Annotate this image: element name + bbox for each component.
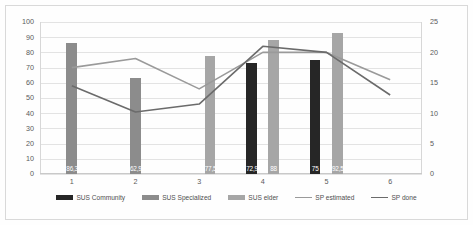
bar[interactable]: 62,9: [130, 78, 141, 174]
y-axis-left-tick-label: 10: [8, 155, 34, 162]
legend-item[interactable]: SUS elder: [228, 194, 278, 201]
legend-line-swatch-icon: [295, 197, 312, 199]
y-axis-left-tick-label: 40: [8, 110, 34, 117]
legend-label: SP estimated: [315, 194, 354, 201]
x-axis-tick-label: 2: [106, 178, 166, 185]
x-axis-baseline: [40, 173, 422, 174]
y-axis-right-tick-label: 20: [430, 49, 454, 56]
x-axis-tick-label: 1: [42, 178, 102, 185]
bar-data-label: 72,9: [246, 165, 257, 172]
bar[interactable]: 75: [310, 60, 321, 174]
y-axis-left-tick-label: 70: [8, 64, 34, 71]
gridline: [40, 98, 422, 99]
bar[interactable]: 72,9: [246, 63, 257, 174]
y-axis-left-tick-label: 60: [8, 79, 34, 86]
legend-bar-swatch-icon: [56, 195, 73, 200]
bar-data-label: 88: [268, 165, 279, 172]
gridline: [40, 159, 422, 160]
bar-data-label: 77,5: [205, 165, 216, 172]
y-axis-left-tick-label: 20: [8, 140, 34, 147]
legend-bar-swatch-icon: [228, 195, 245, 200]
y-axis-left-tick-label: 50: [8, 94, 34, 101]
combo-chart: 0102030405060708090100 0510152025 123456…: [0, 0, 473, 225]
bar-data-label: 92,5: [332, 165, 343, 172]
y-axis-right-tick-label: 5: [430, 140, 454, 147]
plot-area: 86,362,977,572,9887592,5: [40, 22, 422, 174]
gridline: [40, 144, 422, 145]
y-axis-left-tick-label: 80: [8, 49, 34, 56]
gridline: [40, 37, 422, 38]
legend-line-swatch-icon: [371, 197, 388, 199]
gridline: [40, 83, 422, 84]
legend-item[interactable]: SUS Specialized: [142, 194, 211, 201]
legend-label: SUS Specialized: [162, 194, 211, 201]
gridline: [40, 22, 422, 23]
y-axis-right-tick-label: 25: [430, 18, 454, 25]
legend-item[interactable]: SP done: [371, 194, 416, 201]
gridline: [40, 174, 422, 175]
x-axis-tick-label: 3: [169, 178, 229, 185]
y-axis-right-tick-label: 15: [430, 79, 454, 86]
bar-data-label: 62,9: [130, 165, 141, 172]
bar-data-label: 75: [310, 165, 321, 172]
bar[interactable]: 77,5: [205, 56, 216, 174]
x-axis-tick-label: 4: [233, 178, 293, 185]
legend-bar-swatch-icon: [142, 195, 159, 200]
legend-item[interactable]: SP estimated: [295, 194, 354, 201]
x-axis-tick-label: 5: [297, 178, 357, 185]
y-axis-left-tick-label: 100: [8, 18, 34, 25]
y-axis-right-line: [421, 22, 422, 174]
y-axis-left-line: [40, 22, 41, 174]
legend-label: SUS Community: [76, 194, 125, 201]
gridline: [40, 68, 422, 69]
legend-item[interactable]: SUS Community: [56, 194, 125, 201]
bar[interactable]: 86,3: [66, 43, 77, 174]
gridline: [40, 113, 422, 114]
gridline: [40, 128, 422, 129]
y-axis-right-tick-label: 10: [430, 110, 454, 117]
gridline: [40, 52, 422, 53]
bar[interactable]: 88: [268, 40, 279, 174]
chart-legend: SUS CommunitySUS SpecializedSUS elderSP …: [0, 194, 473, 201]
bar[interactable]: 92,5: [332, 33, 343, 174]
y-axis-left-tick-label: 0: [8, 170, 34, 177]
y-axis-right-tick-label: 0: [430, 170, 454, 177]
bar-data-label: 86,3: [66, 165, 77, 172]
y-axis-left-tick-label: 30: [8, 125, 34, 132]
legend-label: SUS elder: [248, 194, 278, 201]
y-axis-left-tick-label: 90: [8, 34, 34, 41]
legend-label: SP done: [391, 194, 416, 201]
x-axis-tick-label: 6: [360, 178, 420, 185]
